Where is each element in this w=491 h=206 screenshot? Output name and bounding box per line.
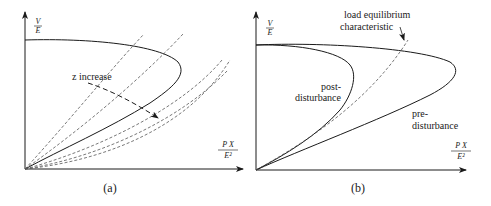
y-label-num-a: V bbox=[36, 17, 42, 26]
post-disturbance-label-line2: disturbance bbox=[295, 92, 342, 103]
load-char-pointer-arrow bbox=[400, 27, 404, 40]
caption-a: (a) bbox=[103, 181, 116, 195]
z-increase-label: z increase bbox=[72, 71, 112, 82]
x-label-num-b: P X bbox=[454, 141, 468, 150]
post-disturbance-label-line1: post- bbox=[321, 81, 341, 92]
y-axis-label-b: V E bbox=[266, 19, 274, 37]
load-char-label-line1: load equilibrium bbox=[344, 9, 411, 20]
nose-curve-a bbox=[25, 40, 181, 169]
y-label-den-a: E bbox=[35, 26, 41, 35]
load-equilibrium-characteristic bbox=[256, 40, 408, 170]
y-axis-label-a: V E bbox=[34, 17, 42, 35]
panel-b: V E P X E² load equilibrium characterist… bbox=[256, 9, 471, 195]
load-line-3 bbox=[25, 60, 222, 169]
x-axis-label-b: P X E² bbox=[451, 141, 471, 161]
pv-curves-figure: V E P X E² z increase (a) bbox=[0, 0, 491, 206]
x-label-den-a: E² bbox=[223, 151, 232, 160]
x-label-num-a: P X bbox=[221, 140, 235, 149]
x-label-den-b: E² bbox=[456, 152, 465, 161]
load-line-4 bbox=[25, 70, 228, 169]
pre-disturbance-label-line1: pre- bbox=[412, 108, 428, 119]
y-label-den-b: E bbox=[267, 28, 273, 37]
load-lines-a bbox=[25, 34, 230, 169]
load-line-2 bbox=[25, 34, 183, 169]
x-axis-label-a: P X E² bbox=[218, 140, 238, 160]
panel-a: V E P X E² z increase (a) bbox=[25, 12, 243, 195]
caption-b: (b) bbox=[351, 181, 365, 195]
post-disturbance-curve bbox=[256, 45, 354, 170]
y-label-num-b: V bbox=[268, 19, 274, 28]
load-char-label-line2: characteristic bbox=[340, 21, 394, 32]
pre-disturbance-label-line2: disturbance bbox=[412, 120, 459, 131]
